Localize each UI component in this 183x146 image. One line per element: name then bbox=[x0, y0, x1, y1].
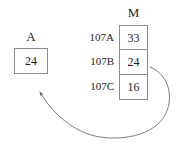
memory-cell-value: 16 bbox=[120, 75, 147, 99]
memory-address-label: 107B bbox=[74, 55, 114, 67]
diagram-canvas: A 24 M 107A 107B 107C 33 24 16 bbox=[0, 0, 183, 146]
register-a-value: 24 bbox=[15, 49, 47, 73]
memory-cell-value: 33 bbox=[120, 26, 147, 50]
memory-cell: 33 bbox=[120, 26, 147, 50]
memory-cell: 16 bbox=[120, 75, 147, 99]
memory-cell: 24 bbox=[120, 50, 147, 74]
memory-address-label: 107A bbox=[74, 31, 114, 43]
register-a-label: A bbox=[14, 30, 48, 44]
register-a-box: 24 bbox=[14, 48, 48, 74]
memory-address-label: 107C bbox=[74, 80, 114, 92]
memory-cell-value: 24 bbox=[120, 50, 147, 74]
memory-m-box: 33 24 16 bbox=[119, 25, 148, 100]
memory-m-label: M bbox=[119, 6, 148, 20]
arrow-path bbox=[40, 67, 169, 138]
